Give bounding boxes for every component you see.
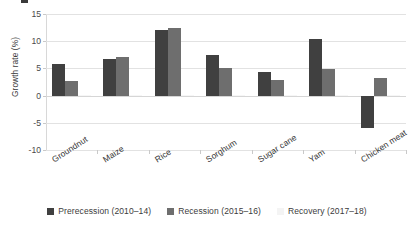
x-axis-tick-mark [252, 150, 253, 154]
bar [181, 95, 194, 96]
bar [78, 95, 91, 96]
bar-group [258, 14, 299, 150]
y-axis-tick-label: -10 [29, 145, 41, 155]
x-axis-tick-mark [97, 150, 98, 154]
figure-corner-mark [21, 0, 28, 3]
plot-area: 151050-5-10 [46, 14, 406, 150]
y-axis-tick-mark [43, 14, 46, 15]
bar [374, 78, 387, 96]
bar [232, 95, 245, 96]
bar [322, 69, 335, 96]
bar [271, 80, 284, 96]
x-axis-tick-mark [355, 150, 356, 154]
bar [168, 28, 181, 96]
legend-entry[interactable]: Recovery (2017–18) [277, 206, 367, 216]
y-axis-tick-label: -5 [33, 118, 41, 128]
bar [206, 55, 219, 96]
y-axis-tick-label: 5 [36, 63, 41, 73]
y-axis-title: Growth rate (%) [10, 19, 20, 115]
legend-label: Recovery (2017–18) [288, 206, 367, 216]
bar [155, 30, 168, 95]
bar-group [155, 14, 196, 150]
bar [258, 72, 271, 95]
bar-group [206, 14, 247, 150]
chart-legend: Prerecession (2010–14)Recession (2015–16… [0, 206, 414, 216]
bar-group [103, 14, 144, 150]
legend-entry[interactable]: Recession (2015–16) [167, 206, 261, 216]
bar [116, 57, 129, 96]
bar [387, 95, 400, 96]
x-axis-tick-mark [149, 150, 150, 154]
bar [103, 59, 116, 96]
legend-swatch-icon [277, 208, 284, 215]
bar [309, 39, 322, 96]
chart-figure: Growth rate (%) 151050-5-10 GroundnutMai… [0, 0, 414, 228]
y-axis-tick-label: 15 [31, 9, 41, 19]
bar [65, 81, 78, 96]
legend-entry[interactable]: Prerecession (2010–14) [47, 206, 151, 216]
bar [335, 95, 348, 96]
y-axis-spine [46, 14, 47, 150]
y-axis-tick-mark [43, 68, 46, 69]
legend-swatch-icon [167, 208, 174, 215]
y-axis-tick-mark [43, 41, 46, 42]
y-axis-tick-label: 0 [36, 91, 41, 101]
x-axis-tick-mark [406, 150, 407, 154]
bar-group [52, 14, 93, 150]
bar [52, 64, 65, 96]
x-axis-tick-mark [200, 150, 201, 154]
y-axis-tick-label: 10 [31, 36, 41, 46]
bar [129, 95, 142, 96]
bar-group [361, 14, 402, 150]
x-axis-tick-mark [303, 150, 304, 154]
bar [284, 95, 297, 96]
legend-label: Recession (2015–16) [178, 206, 261, 216]
y-axis-tick-mark [43, 96, 46, 97]
legend-label: Prerecession (2010–14) [58, 206, 151, 216]
bar [361, 96, 374, 129]
bar-group [309, 14, 350, 150]
legend-swatch-icon [47, 208, 54, 215]
bar [219, 68, 232, 95]
y-axis-tick-mark [43, 123, 46, 124]
y-axis-tick-mark [43, 150, 46, 151]
